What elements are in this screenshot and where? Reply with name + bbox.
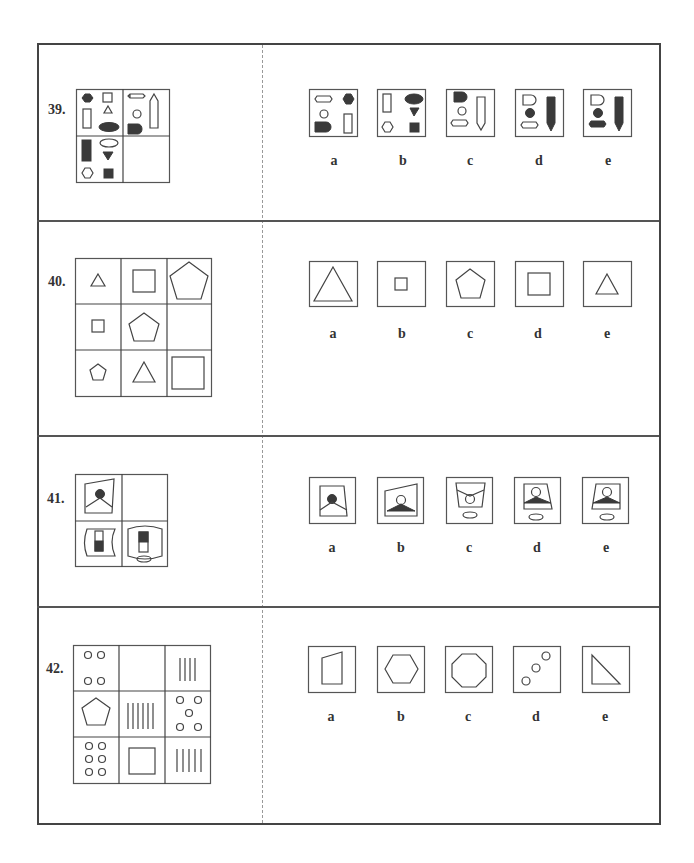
q41-option-b[interactable] bbox=[377, 477, 424, 524]
q40-option-a[interactable] bbox=[309, 261, 358, 307]
q42-option-a[interactable] bbox=[308, 646, 356, 693]
option-label: d bbox=[529, 153, 549, 169]
row-divider bbox=[37, 220, 659, 222]
option-label: b bbox=[391, 540, 411, 556]
option-label: c bbox=[458, 709, 478, 725]
q42-option-b[interactable] bbox=[377, 646, 425, 693]
question-number: 42. bbox=[46, 661, 64, 677]
option-label: b bbox=[391, 709, 411, 725]
q39-option-e[interactable] bbox=[583, 89, 632, 137]
column-divider bbox=[262, 45, 263, 823]
option-label: b bbox=[392, 326, 412, 342]
q40-option-d[interactable] bbox=[515, 261, 564, 307]
option-label: a bbox=[321, 709, 341, 725]
option-label: c bbox=[459, 540, 479, 556]
q42-matrix bbox=[73, 645, 211, 784]
option-label: c bbox=[460, 326, 480, 342]
option-label: d bbox=[527, 540, 547, 556]
option-label: d bbox=[528, 326, 548, 342]
question-number: 41. bbox=[47, 491, 65, 507]
q39-option-d[interactable] bbox=[515, 89, 564, 137]
row-divider bbox=[37, 435, 659, 437]
q41-option-a[interactable] bbox=[309, 477, 356, 524]
q42-option-e[interactable] bbox=[582, 646, 630, 693]
q39-matrix bbox=[76, 89, 170, 183]
option-label: b bbox=[393, 153, 413, 169]
q40-matrix bbox=[75, 258, 212, 397]
q41-option-d[interactable] bbox=[514, 477, 561, 524]
option-label: e bbox=[597, 326, 617, 342]
option-label: e bbox=[596, 540, 616, 556]
option-label: a bbox=[322, 540, 342, 556]
q41-matrix bbox=[75, 474, 168, 567]
option-label: e bbox=[595, 709, 615, 725]
option-label: c bbox=[460, 153, 480, 169]
option-label: a bbox=[323, 326, 343, 342]
option-label: d bbox=[526, 709, 546, 725]
q39-option-c[interactable] bbox=[446, 89, 495, 137]
option-label: e bbox=[598, 153, 618, 169]
question-number: 39. bbox=[48, 102, 66, 118]
option-label: a bbox=[324, 153, 344, 169]
question-number: 40. bbox=[48, 274, 66, 290]
q41-option-c[interactable] bbox=[446, 477, 493, 524]
q42-option-d[interactable] bbox=[513, 646, 561, 693]
q39-option-a[interactable] bbox=[309, 89, 358, 137]
q40-option-e[interactable] bbox=[583, 261, 632, 307]
row-divider bbox=[37, 606, 659, 608]
q41-option-e[interactable] bbox=[582, 477, 629, 524]
q39-option-b[interactable] bbox=[377, 89, 426, 137]
q40-option-b[interactable] bbox=[377, 261, 426, 307]
q42-option-c[interactable] bbox=[445, 646, 493, 693]
q40-option-c[interactable] bbox=[446, 261, 495, 307]
